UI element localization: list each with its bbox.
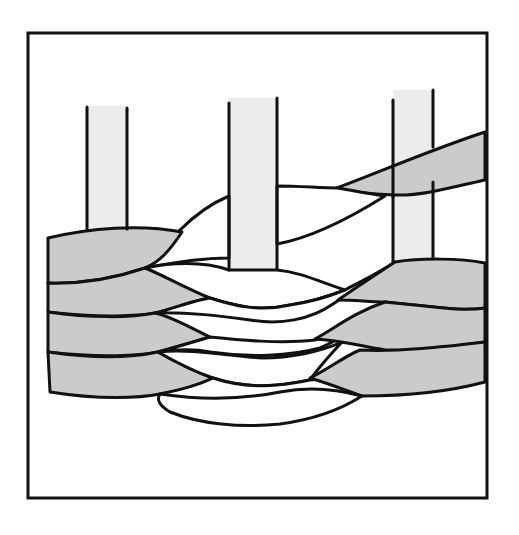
layered-pillars-diagram <box>0 0 519 535</box>
pillar-center <box>229 98 277 272</box>
pillar-left <box>87 106 127 232</box>
